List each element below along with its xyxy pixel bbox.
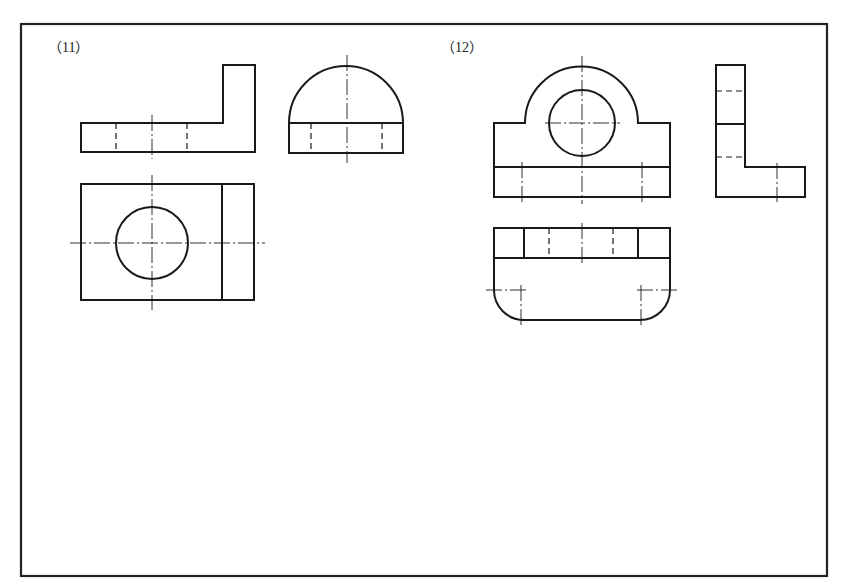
problem-11-top-view bbox=[70, 175, 265, 310]
problem-11-side-view bbox=[289, 55, 403, 163]
problem-12-label: （12） bbox=[441, 40, 483, 55]
problem-12-front-view bbox=[494, 56, 670, 204]
problem-11-front-view bbox=[81, 65, 255, 159]
problem-11-label: （11） bbox=[48, 40, 89, 55]
problem-12-side-view bbox=[716, 65, 805, 202]
engineering-drawing-sheet: （11） （12） bbox=[0, 0, 848, 587]
problem-12-top-view bbox=[486, 223, 677, 325]
